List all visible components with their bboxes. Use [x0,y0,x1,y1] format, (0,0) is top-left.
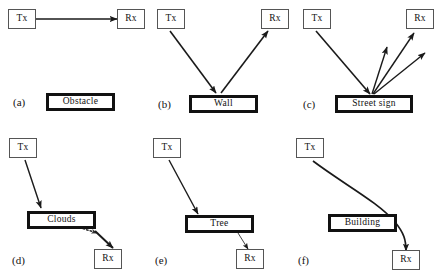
rx-node-a: Rx [117,9,145,29]
tx-label-b: Tx [166,14,177,24]
panel-e-rays [169,160,248,249]
rx-label-b: Rx [269,14,281,24]
tx-node-f: Tx [296,138,324,158]
rx-label-c: Rx [414,14,426,24]
object-label-obstacle: Obstacle [63,97,99,107]
rx-label-a: Rx [125,14,137,24]
tx-node-c: Tx [303,9,331,29]
tx-label-e: Tx [162,143,173,153]
object-box-street-sign: Street sign [335,95,413,113]
panel-label-a: (a) [13,97,25,108]
ray-tx-to-tree [169,160,198,214]
ray-tx-to-sign [316,31,370,94]
ray-clouds-to-rx [95,231,113,248]
tx-label-a: Tx [17,14,28,24]
rx-label-f: Rx [400,255,412,265]
scatter-ray-1 [372,47,387,94]
rx-node-e: Rx [236,249,264,269]
propagation-mechanisms-figure: Rx direct path ========== --> [0,0,441,280]
object-box-wall: Wall [189,95,258,113]
panel-c-rays [316,31,425,94]
object-label-tree: Tree [210,219,228,229]
panel-label-e: (e) [155,255,167,266]
object-label-building: Building [345,218,381,228]
ray-tree-to-rx [238,233,248,249]
object-box-building: Building [328,214,397,232]
panel-label-d: (d) [12,255,25,266]
panel-b-rays [170,31,268,93]
ray-paths-layer: Rx direct path ========== --> [0,0,441,280]
tx-node-e: Tx [153,138,181,158]
tx-label-f: Tx [305,143,316,153]
panel-d-rays [25,160,113,248]
tx-label-c: Tx [312,14,323,24]
object-label-street-sign: Street sign [352,99,396,109]
object-label-clouds: Clouds [47,215,76,225]
ray-tx-to-clouds [25,160,41,208]
rx-node-f: Rx [392,250,420,270]
object-label-wall: Wall [214,99,233,109]
rx-node-c: Rx [406,9,434,29]
scatter-ray-3 [374,53,425,94]
panel-label-f: (f) [298,255,309,266]
rx-label-e: Rx [244,254,256,264]
rx-node-b: Rx [261,9,289,29]
rx-label-d: Rx [102,254,114,264]
tx-node-a: Tx [8,9,36,29]
ray-tx-diffracted-to-rx [313,161,406,251]
object-box-clouds: Clouds [27,211,96,229]
panel-label-b: (b) [158,99,171,110]
object-box-tree: Tree [185,215,254,233]
object-box-obstacle: Obstacle [46,93,115,111]
tx-node-d: Tx [9,138,37,158]
tx-label-d: Tx [18,143,29,153]
panel-label-c: (c) [303,99,315,110]
scatter-ray-to-rx [373,33,414,94]
ray-wall-to-rx [221,31,268,93]
ray-tx-to-wall [170,31,216,93]
tx-node-b: Tx [157,9,185,29]
rx-node-d: Rx [94,249,122,269]
panel-f-rays [313,161,406,251]
